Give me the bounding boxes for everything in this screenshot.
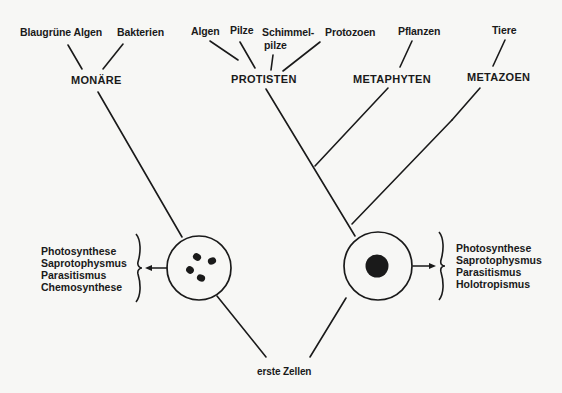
label-tiere: Tiere [492,24,516,36]
label-algen: Algen [191,25,220,37]
edge-tiere-metazoen [493,40,505,66]
edge-schimmelpilze-protisten [271,55,273,70]
right-nutrition-item: Photosynthese [456,242,542,254]
edge-pflanzen-metaphyten [400,41,412,67]
group-metazoen: METAZOEN [467,71,530,83]
edge-algen-protisten [210,41,238,60]
edge-bakterien-monaere [103,44,123,69]
left-nutrition-item: Parasitismus [41,269,127,281]
tree-lines [0,0,562,393]
group-protisten: PROTISTEN [231,73,297,85]
nucleus-icon [366,255,389,278]
edge-metazoen [452,88,480,120]
label-bakterien: Bakterien [117,26,164,38]
label-schimmelpilze-line1: Schimmel- [262,26,314,38]
nucleoid-dots-icon [185,252,217,283]
right-nutrition-list: Photosynthese Saprotophysmus Parasitismu… [456,242,542,290]
right-nutrition-item: Holotropismus [456,278,542,290]
edge-monaere-left-cell [98,92,182,237]
edge-protozoen-protisten [283,42,320,71]
label-protozoen: Protozoen [325,26,375,38]
arrow-left-icon [145,265,152,271]
edge-metaphyten [315,88,388,166]
edge-left-cell-root [217,296,266,357]
arrow-right-icon [429,263,436,269]
label-blaugruene-algen: Blaugrüne Algen [20,26,102,38]
left-nutrition-item: Chemosynthese [41,281,127,293]
label-pilze: Pilze [230,24,253,36]
left-nutrition-item: Saprotophysmus [41,257,127,269]
right-nutrition-item: Parasitismus [456,266,542,278]
label-pflanzen: Pflanzen [398,25,440,37]
edge-blaugruene-monaere [68,45,82,69]
left-brace-icon [136,234,142,302]
edge-protisten-right-cell [266,89,355,236]
left-nutrition-list: Photosynthese Saprotophysmus Parasitismu… [41,245,127,293]
edge-pilze-protisten [240,42,255,68]
group-metaphyten: METAPHYTEN [353,73,431,85]
right-nutrition-item: Saprotophysmus [456,254,542,266]
edge-metazoen-upper [352,120,452,224]
root-label: erste Zellen [257,366,311,378]
edge-right-cell-root [310,298,346,357]
right-brace-icon [439,232,445,300]
prokaryote-cell-icon [167,236,231,300]
label-schimmelpilze-line2: pilze [264,39,287,51]
group-monaere: MONÄRE [71,74,122,86]
left-nutrition-item: Photosynthese [41,245,127,257]
